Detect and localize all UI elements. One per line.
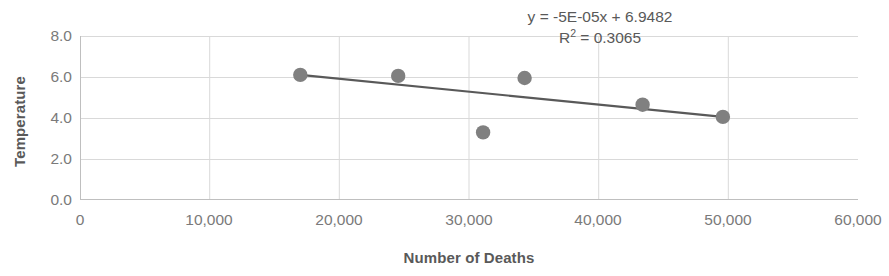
scatter-chart: Temperature 8.0 6.0 4.0 2.0 0.0 — [0, 0, 889, 276]
y-tick-label-4: 4.0 — [22, 109, 72, 127]
trendline-equation-annotation: y = -5E-05x + 6.9482 R2 = 0.3065 — [440, 6, 760, 48]
x-tick-label-40000: 40,000 — [543, 211, 653, 229]
data-point — [391, 69, 405, 83]
r-squared-symbol: R — [559, 29, 570, 46]
y-tick-label-2: 2.0 — [22, 150, 72, 168]
x-tick-label-0: 0 — [25, 211, 135, 229]
plot-area — [80, 36, 858, 200]
data-point — [716, 110, 730, 124]
trendline — [300, 75, 723, 117]
r-squared-value: = 0.3065 — [576, 29, 641, 46]
x-tick-label-30000: 30,000 — [414, 211, 524, 229]
trendline-r-squared: R2 = 0.3065 — [440, 27, 760, 48]
x-tick-label-20000: 20,000 — [284, 211, 394, 229]
y-tick-label-8: 8.0 — [22, 27, 72, 45]
data-point — [476, 125, 490, 139]
trendline-equation: y = -5E-05x + 6.9482 — [440, 6, 760, 27]
y-tick-label-6: 6.0 — [22, 68, 72, 86]
x-tick-label-50000: 50,000 — [673, 211, 783, 229]
data-point — [517, 71, 531, 85]
data-point — [635, 98, 649, 112]
data-point-markers — [293, 68, 730, 140]
x-tick-label-10000: 10,000 — [154, 211, 264, 229]
data-point — [293, 68, 307, 82]
y-tick-label-0: 0.0 — [22, 191, 72, 209]
x-tick-label-60000: 60,000 — [803, 211, 889, 229]
x-axis-title: Number of Deaths — [80, 249, 858, 266]
plot-canvas — [80, 36, 858, 200]
